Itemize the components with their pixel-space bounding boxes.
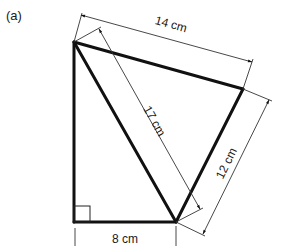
diagram-canvas: (a) (0, 0, 286, 246)
label-14cm: 14 cm (153, 13, 188, 35)
ext-14-a (74, 13, 82, 42)
right-angle-marker (74, 206, 90, 222)
geometry-figure: (a) (0, 0, 286, 246)
dim-12 (203, 100, 269, 234)
label-12cm: 12 cm (213, 145, 240, 180)
dimension-lines (74, 13, 272, 246)
part-label: (a) (6, 8, 22, 23)
ext-14-b (243, 59, 253, 89)
label-17cm: 17 cm (140, 103, 168, 138)
ext-12-b (243, 89, 272, 101)
edge-ab-top (74, 42, 243, 89)
label-8cm: 8 cm (112, 232, 138, 246)
ext-12-c (176, 222, 205, 236)
ext-17-a (74, 27, 101, 42)
